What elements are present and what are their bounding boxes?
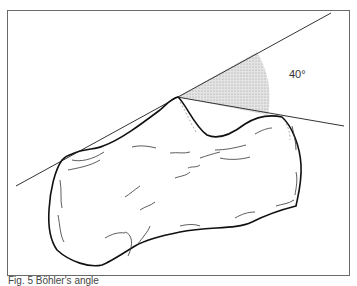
angle-label: 40° [289, 68, 306, 80]
figure-caption: Fig. 5 Böhler's angle [8, 275, 99, 286]
bone-outline [49, 97, 301, 266]
angle-sector [177, 52, 270, 115]
bone-texture [58, 126, 297, 256]
